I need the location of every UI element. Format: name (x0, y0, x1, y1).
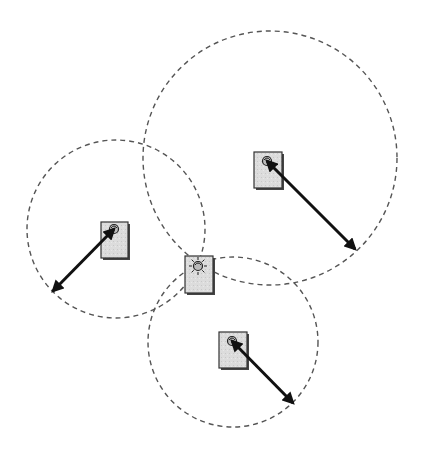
trilateration-diagram (0, 0, 423, 455)
anchor-node-anchor-bottom (219, 332, 249, 370)
signal-source-icon (189, 257, 207, 275)
anchor-node-anchor-top-right (254, 152, 284, 190)
target-node (185, 256, 215, 295)
anchor-node-anchor-left (101, 222, 130, 260)
range-arrow-anchor-top-right (267, 161, 355, 249)
range-arrow-anchor-bottom (232, 341, 293, 403)
range-circles (27, 31, 397, 427)
